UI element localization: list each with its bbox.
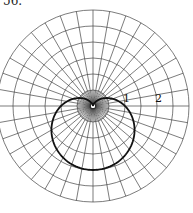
polar-grid (0, 10, 189, 202)
r-tick-label-2: 2 (155, 92, 162, 105)
r-tick-label-1: 1 (123, 92, 130, 105)
polar-plot: 1 2 (0, 0, 193, 213)
